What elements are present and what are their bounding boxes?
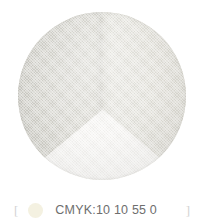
bracket-right-icon: ]	[186, 204, 190, 217]
color-dot-icon	[28, 203, 43, 218]
bracket-left-icon: [	[14, 204, 18, 217]
swatch-circle	[18, 12, 186, 180]
cmyk-value-label: CMYK:10 10 55 0	[55, 203, 157, 217]
caption-row: [ CMYK:10 10 55 0 ]	[0, 199, 202, 221]
swatch-edge-ring	[18, 12, 186, 180]
color-swatch-figure	[18, 12, 186, 180]
